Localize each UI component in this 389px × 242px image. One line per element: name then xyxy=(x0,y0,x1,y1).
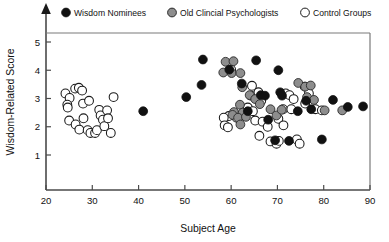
legend-label-wisdom-nominees: Wisdom Nominees xyxy=(74,8,146,18)
data-point xyxy=(103,106,112,115)
data-point xyxy=(274,66,283,75)
data-point xyxy=(236,69,245,78)
series-control-groups xyxy=(61,65,326,148)
data-point xyxy=(302,96,311,105)
data-point xyxy=(197,81,206,90)
legend-label-control-groups: Control Groups xyxy=(313,8,371,18)
data-point xyxy=(252,56,261,65)
data-point xyxy=(255,131,264,140)
x-axis-ticks: 2030405060708090 xyxy=(41,185,376,206)
data-point xyxy=(225,65,234,74)
y-tick-label: 1 xyxy=(35,150,40,161)
legend-item-wisdom-nominees: Wisdom Nominees xyxy=(62,8,147,18)
x-tick-label: 60 xyxy=(226,195,237,206)
chart-container: Wisdom Nominees Old Clincial Psychologis… xyxy=(0,0,389,242)
legend-item-old-clinical-psychologists: Old Clincial Psychologists xyxy=(168,8,279,18)
y-axis-title: Wisdom-Related Score xyxy=(5,48,16,155)
y-tick-label: 2 xyxy=(35,121,40,132)
legend-label-old-clinical-psychologists: Old Clincial Psychologists xyxy=(180,8,278,18)
data-point xyxy=(199,55,208,64)
chart-legend: Wisdom Nominees Old Clincial Psychologis… xyxy=(62,8,372,18)
data-point xyxy=(237,79,246,88)
data-point xyxy=(285,136,294,145)
open-circle-icon xyxy=(301,8,310,17)
data-point xyxy=(306,81,315,90)
gray-circle-icon xyxy=(168,8,177,17)
data-point xyxy=(182,93,191,102)
data-point xyxy=(271,136,280,145)
x-tick-label: 70 xyxy=(272,195,283,206)
x-axis-title: Subject Age xyxy=(180,223,236,234)
x-tick-label: 40 xyxy=(133,195,144,206)
data-point xyxy=(277,105,286,114)
data-point xyxy=(359,102,368,111)
x-tick-label: 20 xyxy=(41,195,52,206)
data-point xyxy=(85,96,94,105)
data-point xyxy=(79,114,88,123)
x-tick-label: 50 xyxy=(180,195,191,206)
y-tick-label: 5 xyxy=(35,37,40,48)
data-point xyxy=(229,57,238,66)
data-point xyxy=(293,107,302,116)
data-point xyxy=(278,91,287,100)
data-point xyxy=(307,105,316,114)
x-tick-label: 90 xyxy=(365,195,376,206)
data-point xyxy=(63,103,72,112)
data-point xyxy=(317,135,326,144)
data-point xyxy=(75,125,84,134)
data-point xyxy=(243,107,252,116)
plot-frame xyxy=(46,14,370,190)
y-axis-ticks: 12345 xyxy=(35,37,51,161)
x-tick-label: 80 xyxy=(318,195,329,206)
data-point xyxy=(104,114,113,123)
y-tick-label: 4 xyxy=(35,65,41,76)
data-point xyxy=(320,106,329,115)
data-point xyxy=(224,123,233,132)
data-point xyxy=(78,86,87,95)
scatter-plot: Wisdom Nominees Old Clincial Psychologis… xyxy=(0,0,389,242)
filled-circle-icon xyxy=(62,8,71,17)
legend-item-control-groups: Control Groups xyxy=(301,8,372,18)
y-axis-arrow-icon xyxy=(41,3,51,14)
data-point xyxy=(289,95,298,104)
y-tick-label: 3 xyxy=(35,93,40,104)
x-tick-label: 30 xyxy=(87,195,98,206)
data-point xyxy=(261,91,270,100)
data-point xyxy=(139,107,148,116)
data-point xyxy=(310,96,319,105)
data-point xyxy=(279,121,288,130)
data-point xyxy=(329,96,338,105)
data-point xyxy=(343,103,352,112)
data-point xyxy=(109,93,118,102)
data-point xyxy=(255,100,264,109)
data-point xyxy=(264,115,273,124)
data-point xyxy=(295,139,304,148)
data-point xyxy=(236,120,245,129)
data-point xyxy=(106,129,115,138)
